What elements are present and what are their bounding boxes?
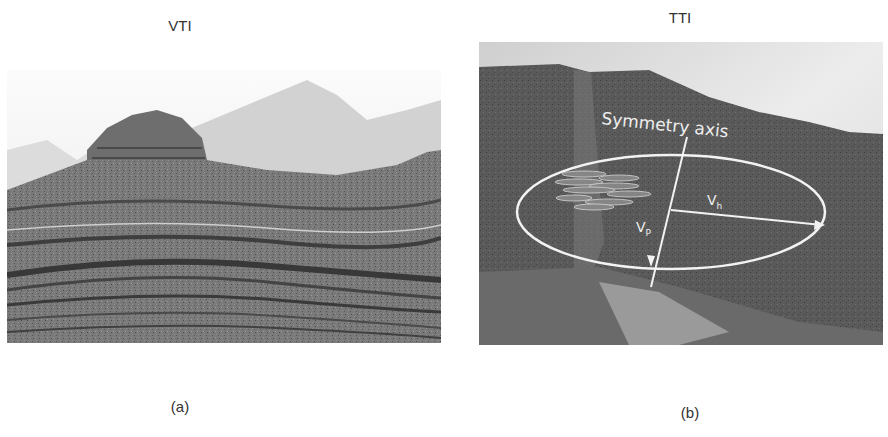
panel-a-title: VTI — [150, 17, 210, 34]
panel-b-caption: (b) — [660, 404, 720, 421]
panel-b-title: TTI — [650, 9, 710, 26]
tilted-cliff-illustration: Symmetry axis Vh VP — [479, 42, 883, 345]
panel-a-image — [7, 70, 441, 343]
panel-a-caption: (a) — [150, 398, 210, 415]
panel-b-image: Symmetry axis Vh VP — [479, 42, 883, 345]
layered-canyon-illustration — [7, 70, 441, 343]
